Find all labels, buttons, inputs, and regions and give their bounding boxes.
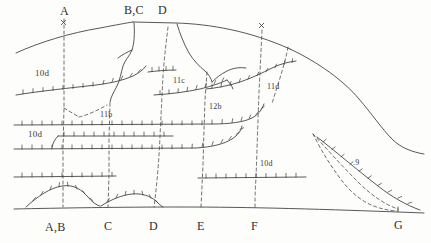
unit-label-9: .9 [353,158,360,167]
x-point-marks [61,20,264,28]
fault-hook-d [212,68,246,82]
fault-trace-d [154,27,168,207]
unit-label-10d-left: 10d [28,129,42,139]
bed-9-right-ticks [323,139,412,203]
top-label-d: D [158,3,167,18]
unit-label-10d-upper: 10d [35,68,49,78]
bed-11d [206,61,296,89]
bed-stack-3-ticks [22,128,244,149]
x-mark-f [259,23,264,28]
fault-trace-g-inner [313,134,398,211]
x-mark-a [61,20,66,25]
bottom-label-c: C [104,219,112,234]
topographic-surface-crest [133,22,290,49]
fault-trace-11d [272,47,288,104]
fault-trace-f [255,30,262,207]
topographic-surface-right [290,49,424,154]
fault-scarp-bc [110,23,134,102]
unit-label-11d: 11d [267,82,280,91]
ground-datum-line [14,207,424,213]
bottom-label-g: G [394,218,403,233]
unit-label-10d-right: 10d [260,159,273,168]
bottom-label-e: E [197,219,205,234]
bed-stack-1 [14,104,264,125]
top-label-bc: B,C [124,3,144,18]
top-label-a: A [60,4,69,19]
unit-label-11c: 11c [173,76,185,85]
unit-label-12b: 12b [209,102,222,111]
surface-hump-right-ticks [107,190,158,203]
bed-stack-1-ticks [22,106,264,125]
dashed-fault-traces [63,19,398,211]
topographic-surface-left [16,22,133,53]
bed-stack-3 [14,126,242,149]
solid-strokes [14,22,424,213]
cross-section-drawing [0,0,431,243]
bed-11d-ticks [212,59,293,89]
bed-stack-4b [198,177,306,178]
fault-trace-a-branch [64,108,79,117]
fault-trace-a [63,19,64,207]
bottom-label-d: D [149,219,158,234]
bed-stack-2-ticks [64,132,164,136]
fault-trace-e [201,72,207,207]
fault-trace-g [313,134,398,209]
unit-label-11b: 11b [100,110,113,119]
surface-hump-right [101,194,163,207]
surface-hump-left-ticks [33,182,93,201]
figure-canvas: A B,C D A,B C D E F G 10d 11b 11c 12b 11… [0,0,431,243]
bottom-label-ab: A,B [45,220,66,235]
bottom-label-f: F [251,219,258,234]
bed-stack-2-riser [52,136,58,147]
bed-stack-4 [14,176,116,177]
